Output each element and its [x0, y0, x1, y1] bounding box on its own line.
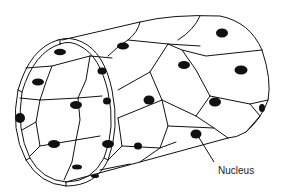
nucleus-icon — [54, 49, 66, 55]
capillary-diagram: Nucleus — [0, 0, 284, 195]
nucleus-icon — [191, 130, 202, 139]
tube-right-end — [228, 50, 269, 138]
nucleus-label: Nucleus — [218, 166, 254, 176]
nucleus-icon — [98, 68, 107, 75]
nucleus-icon — [209, 98, 221, 107]
nucleus-icon — [91, 174, 99, 178]
nucleus-icon — [103, 98, 111, 105]
nucleus-icon — [117, 43, 129, 50]
nucleus-icon — [102, 140, 114, 148]
nucleus-icon — [70, 101, 82, 109]
opening-inner-rim — [20, 42, 111, 182]
nucleus-icon — [235, 66, 248, 75]
tube-top-edge — [62, 16, 262, 50]
nucleus-icon — [72, 165, 82, 170]
nuclei-group — [15, 29, 265, 179]
nucleus-icon — [15, 113, 25, 123]
nucleus-icon — [32, 79, 44, 86]
nucleus-icon — [178, 61, 190, 69]
nucleus-icon — [144, 96, 155, 105]
nucleus-icon — [134, 143, 142, 150]
nucleus-icon — [48, 140, 60, 148]
nucleus-icon — [216, 29, 228, 38]
nucleus-icon — [259, 104, 265, 112]
nucleus-pointer-line — [198, 136, 214, 162]
